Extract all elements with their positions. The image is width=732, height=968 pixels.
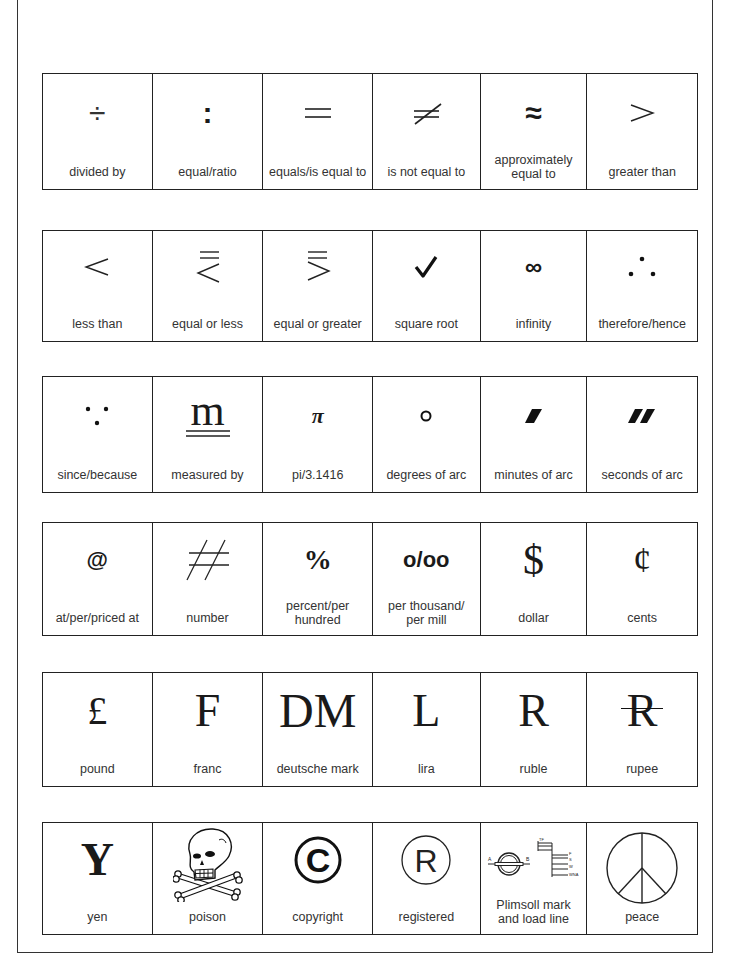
dollar-icon: $ bbox=[481, 523, 587, 597]
cell-label: copyright bbox=[263, 910, 372, 924]
svg-text:F: F bbox=[569, 851, 572, 856]
svg-text:A: A bbox=[488, 856, 492, 862]
cell-label: therefore/hence bbox=[587, 317, 697, 331]
skull-crossbones-icon bbox=[153, 823, 263, 904]
symbol-row-1: ÷ divided by : equal/ratio equals/is equ… bbox=[42, 73, 698, 190]
therefore-icon bbox=[587, 231, 697, 303]
symbol-row-3: since/because m measured by π pi/3.1416 … bbox=[42, 376, 698, 493]
equal-or-less-icon bbox=[153, 231, 263, 303]
at-icon: @ bbox=[43, 523, 152, 597]
measured-by-icon: m bbox=[153, 377, 263, 454]
infinity-icon: ∞ bbox=[481, 231, 587, 303]
cell-label: approximatelyequal to bbox=[481, 153, 587, 181]
cell-franc: F franc bbox=[153, 673, 264, 786]
symbol-row-2: less than equal or less equal or greater… bbox=[42, 230, 698, 342]
cell-therefore: therefore/hence bbox=[587, 231, 697, 341]
cell-registered: R registered bbox=[373, 823, 481, 934]
franc-icon: F bbox=[153, 673, 263, 748]
percent-icon: % bbox=[263, 523, 372, 597]
ratio-icon: : bbox=[153, 74, 263, 151]
degree-icon bbox=[373, 377, 480, 454]
cell-label: per thousand/per mill bbox=[373, 599, 480, 627]
cell-label: is not equal to bbox=[373, 165, 480, 179]
cell-label: degrees of arc bbox=[373, 468, 480, 482]
cell-not-equal: is not equal to bbox=[373, 74, 481, 189]
cell-label: percent/perhundred bbox=[263, 599, 372, 627]
cell-pi: π pi/3.1416 bbox=[263, 377, 373, 492]
cell-label: yen bbox=[43, 910, 152, 924]
cell-since-because: since/because bbox=[43, 377, 153, 492]
symbol-row-6: Y yen bbox=[42, 822, 698, 935]
cell-label: since/because bbox=[43, 468, 152, 482]
svg-text:B: B bbox=[526, 856, 530, 862]
cell-label: poison bbox=[153, 910, 263, 924]
cell-label: measured by bbox=[153, 468, 263, 482]
peace-icon bbox=[587, 823, 697, 912]
rupee-icon: R bbox=[587, 673, 697, 748]
cell-cents: ¢ cents bbox=[587, 523, 697, 635]
cell-peace: peace bbox=[587, 823, 697, 934]
cell-less-than: less than bbox=[43, 231, 153, 341]
cell-label: square root bbox=[373, 317, 480, 331]
number-sign-icon bbox=[153, 523, 263, 597]
cell-label: divided by bbox=[43, 165, 152, 179]
cent-icon: ¢ bbox=[587, 523, 697, 597]
cell-label: pound bbox=[43, 762, 152, 776]
cell-measured-by: m measured by bbox=[153, 377, 264, 492]
pound-icon: £ bbox=[43, 673, 152, 748]
cell-minutes: minutes of arc bbox=[481, 377, 588, 492]
cell-pound: £ pound bbox=[43, 673, 153, 786]
cell-equals: equals/is equal to bbox=[263, 74, 373, 189]
cell-label: Plimsoll markand load line bbox=[481, 898, 587, 926]
cell-degrees: degrees of arc bbox=[373, 377, 481, 492]
cell-label: less than bbox=[43, 317, 152, 331]
cell-deutsche-mark: DM deutsche mark bbox=[263, 673, 373, 786]
svg-text:C: C bbox=[305, 841, 330, 879]
cell-label: pi/3.1416 bbox=[263, 468, 372, 482]
cell-label: franc bbox=[153, 762, 263, 776]
cell-dollar: $ dollar bbox=[481, 523, 588, 635]
cell-equal-or-less: equal or less bbox=[153, 231, 264, 341]
cell-lira: L lira bbox=[373, 673, 481, 786]
copyright-icon: C bbox=[263, 823, 372, 896]
cell-label: registered bbox=[373, 910, 480, 924]
divide-icon: ÷ bbox=[43, 74, 152, 151]
approx-icon: ≈ bbox=[481, 74, 587, 151]
cell-copyright: C copyright bbox=[263, 823, 373, 934]
cell-label: infinity bbox=[481, 317, 587, 331]
because-icon bbox=[43, 377, 152, 454]
cell-seconds: seconds of arc bbox=[587, 377, 697, 492]
less-than-icon bbox=[43, 231, 152, 303]
cell-at: @ at/per/priced at bbox=[43, 523, 153, 635]
cell-label: equals/is equal to bbox=[263, 165, 372, 179]
cell-ruble: R ruble bbox=[481, 673, 588, 786]
second-mark-icon bbox=[587, 377, 697, 454]
cell-number: number bbox=[153, 523, 264, 635]
cell-equal-or-greater: equal or greater bbox=[263, 231, 373, 341]
minute-mark-icon bbox=[481, 377, 587, 454]
check-root-icon bbox=[373, 231, 480, 303]
cell-label: deutsche mark bbox=[263, 762, 372, 776]
lira-icon: L bbox=[373, 673, 480, 748]
svg-text:W: W bbox=[569, 864, 573, 869]
equals-icon bbox=[263, 74, 372, 151]
plimsoll-mark-icon: A B TF F S W WNA bbox=[481, 823, 587, 896]
ruble-icon: R bbox=[481, 673, 587, 748]
pi-icon: π bbox=[263, 377, 372, 454]
cell-label: cents bbox=[587, 611, 697, 625]
cell-label: ruble bbox=[481, 762, 587, 776]
symbol-row-5: £ pound F franc DM deutsche mark L lira … bbox=[42, 672, 698, 787]
svg-text:R: R bbox=[415, 843, 438, 879]
svg-text:TF: TF bbox=[539, 837, 544, 842]
equal-or-greater-icon bbox=[263, 231, 372, 303]
cell-label: equal or less bbox=[153, 317, 263, 331]
cell-label: dollar bbox=[481, 611, 587, 625]
cell-infinity: ∞ infinity bbox=[481, 231, 588, 341]
cell-rupee: R rupee bbox=[587, 673, 697, 786]
cell-poison: poison bbox=[153, 823, 264, 934]
per-mill-icon: o/oo bbox=[373, 523, 480, 597]
deutsche-mark-icon: DM bbox=[263, 673, 372, 748]
cell-plimsoll: A B TF F S W WNA Plimsoll markand load l… bbox=[481, 823, 588, 934]
cell-label: seconds of arc bbox=[587, 468, 697, 482]
yen-icon: Y bbox=[43, 823, 152, 896]
